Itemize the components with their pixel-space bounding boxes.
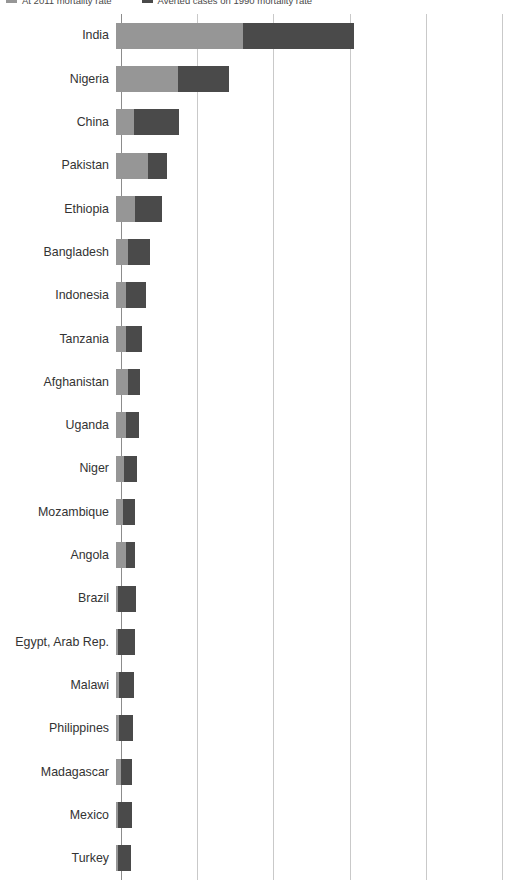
chart-category-label: China [0, 116, 116, 128]
chart-bar-segment [118, 802, 132, 828]
chart-plot-area: IndiaNigeriaChinaPakistanEthiopiaBanglad… [0, 14, 526, 880]
legend-line-swatch-icon [6, 0, 17, 3]
chart-bar-segment [135, 196, 162, 222]
chart-bar-segment [126, 282, 147, 308]
chart-bar-row: Indonesia [0, 274, 526, 317]
chart-bar-segment [118, 629, 135, 655]
chart-category-label: India [0, 29, 116, 41]
chart-bar [116, 499, 526, 525]
chart-bar-row: Philippines [0, 707, 526, 750]
chart-bar-segment [243, 23, 354, 49]
chart-bar [116, 412, 526, 438]
chart-bar-segment [116, 66, 178, 92]
chart-bar-segment [116, 412, 126, 438]
chart-bar-segment [124, 456, 137, 482]
chart-bar [116, 326, 526, 352]
chart-category-label: Uganda [0, 419, 116, 431]
chart-bar [116, 282, 526, 308]
legend-item-label: Averted cases on 1990 mortality rate [158, 0, 313, 6]
chart-bar-segment [126, 326, 142, 352]
chart-bar-row: Ethiopia [0, 187, 526, 230]
chart-bar-segment [119, 672, 134, 698]
chart-bar-row: Mexico [0, 793, 526, 836]
chart-bar-row: India [0, 14, 526, 57]
chart-bar-segment [116, 456, 124, 482]
chart-bar-row: Tanzania [0, 317, 526, 360]
chart-bar [116, 23, 526, 49]
chart-bar-row: Nigeria [0, 57, 526, 100]
chart-category-label: Mozambique [0, 506, 116, 518]
chart-category-label: Bangladesh [0, 246, 116, 258]
chart-bar-rows: IndiaNigeriaChinaPakistanEthiopiaBanglad… [0, 14, 526, 880]
chart-bar-row: Madagascar [0, 750, 526, 793]
chart-bar-segment [116, 109, 134, 135]
chart-category-label: Nigeria [0, 73, 116, 85]
chart-bar-segment [123, 499, 135, 525]
chart-category-label: Indonesia [0, 289, 116, 301]
chart-bar [116, 109, 526, 135]
chart-bar [116, 66, 526, 92]
chart-category-label: Brazil [0, 592, 116, 604]
legend-item-averted-cases-on-1990-mortality-rate: Averted cases on 1990 mortality rate [142, 0, 313, 6]
chart-bar [116, 629, 526, 655]
chart-category-label: Turkey [0, 852, 116, 864]
chart-bar-segment [116, 542, 126, 568]
chart-bar-segment [134, 109, 180, 135]
chart-bar-row: Afghanistan [0, 360, 526, 403]
chart-category-label: Mexico [0, 809, 116, 821]
chart-bar-row: Mozambique [0, 490, 526, 533]
chart-bar-row: China [0, 101, 526, 144]
chart-bar [116, 542, 526, 568]
chart-bar-segment [116, 326, 126, 352]
legend-line-swatch-icon [142, 0, 153, 3]
chart-bar-row: Brazil [0, 577, 526, 620]
chart-category-label: Malawi [0, 679, 116, 691]
chart-bar [116, 153, 526, 179]
chart-bar-segment [121, 759, 132, 785]
chart-bar-segment [116, 499, 123, 525]
chart-bar-row: Malawi [0, 664, 526, 707]
chart-bar-row: Egypt, Arab Rep. [0, 620, 526, 663]
chart-bar-segment [126, 412, 140, 438]
chart-bar-segment [116, 153, 148, 179]
chart-bar-segment [118, 845, 131, 871]
chart-bar [116, 369, 526, 395]
chart-bar [116, 845, 526, 871]
chart-bar-segment [116, 23, 243, 49]
chart-category-label: Ethiopia [0, 203, 116, 215]
chart-legend: At 2011 mortality rate Averted cases on … [0, 0, 526, 9]
chart-bar-row: Niger [0, 447, 526, 490]
chart-bar-segment [126, 542, 135, 568]
chart-bar-segment [128, 239, 151, 265]
chart-bar [116, 759, 526, 785]
chart-bar-segment [116, 282, 126, 308]
chart-bar-segment [119, 715, 133, 741]
chart-bar-row: Bangladesh [0, 231, 526, 274]
chart-bar-segment [178, 66, 229, 92]
chart-bar [116, 239, 526, 265]
chart-category-label: Egypt, Arab Rep. [0, 636, 116, 648]
chart-bar-segment [116, 369, 128, 395]
chart-bar [116, 715, 526, 741]
chart-bar-row: Turkey [0, 837, 526, 880]
chart-bar-segment [116, 196, 135, 222]
chart-category-label: Philippines [0, 722, 116, 734]
legend-item-label: At 2011 mortality rate [22, 0, 112, 6]
chart-bar-row: Angola [0, 534, 526, 577]
chart-category-label: Tanzania [0, 333, 116, 345]
legend-item-at-2011-mortality-rate: At 2011 mortality rate [6, 0, 112, 6]
chart-category-label: Pakistan [0, 159, 116, 171]
chart-bar-row: Uganda [0, 404, 526, 447]
chart-bar [116, 456, 526, 482]
chart-category-label: Afghanistan [0, 376, 116, 388]
chart-bar-segment [116, 239, 128, 265]
chart-bar-segment [148, 153, 167, 179]
chart-bar-segment [118, 586, 136, 612]
chart-bar [116, 672, 526, 698]
chart-bar-row: Pakistan [0, 144, 526, 187]
chart-bar [116, 196, 526, 222]
chart-bar-segment [128, 369, 140, 395]
chart-bar [116, 802, 526, 828]
chart-category-label: Madagascar [0, 766, 116, 778]
chart-category-label: Angola [0, 549, 116, 561]
